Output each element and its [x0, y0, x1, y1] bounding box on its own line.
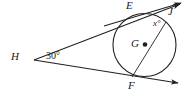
- center-label-g: G: [131, 38, 139, 49]
- point-label-f: F: [128, 80, 135, 91]
- geometry-canvas: [0, 0, 188, 99]
- geometry-figure: E J H F G 30° x°: [0, 0, 188, 99]
- point-label-j: J: [168, 6, 173, 17]
- point-label-h: H: [11, 51, 19, 62]
- angle-label-x: x°: [153, 19, 161, 28]
- center-dot-g: [143, 42, 148, 47]
- angle-label-h: 30°: [46, 51, 60, 61]
- point-label-e: E: [126, 0, 133, 11]
- tangent-line-h-f: [34, 60, 178, 83]
- chord-j-f: [132, 22, 166, 77]
